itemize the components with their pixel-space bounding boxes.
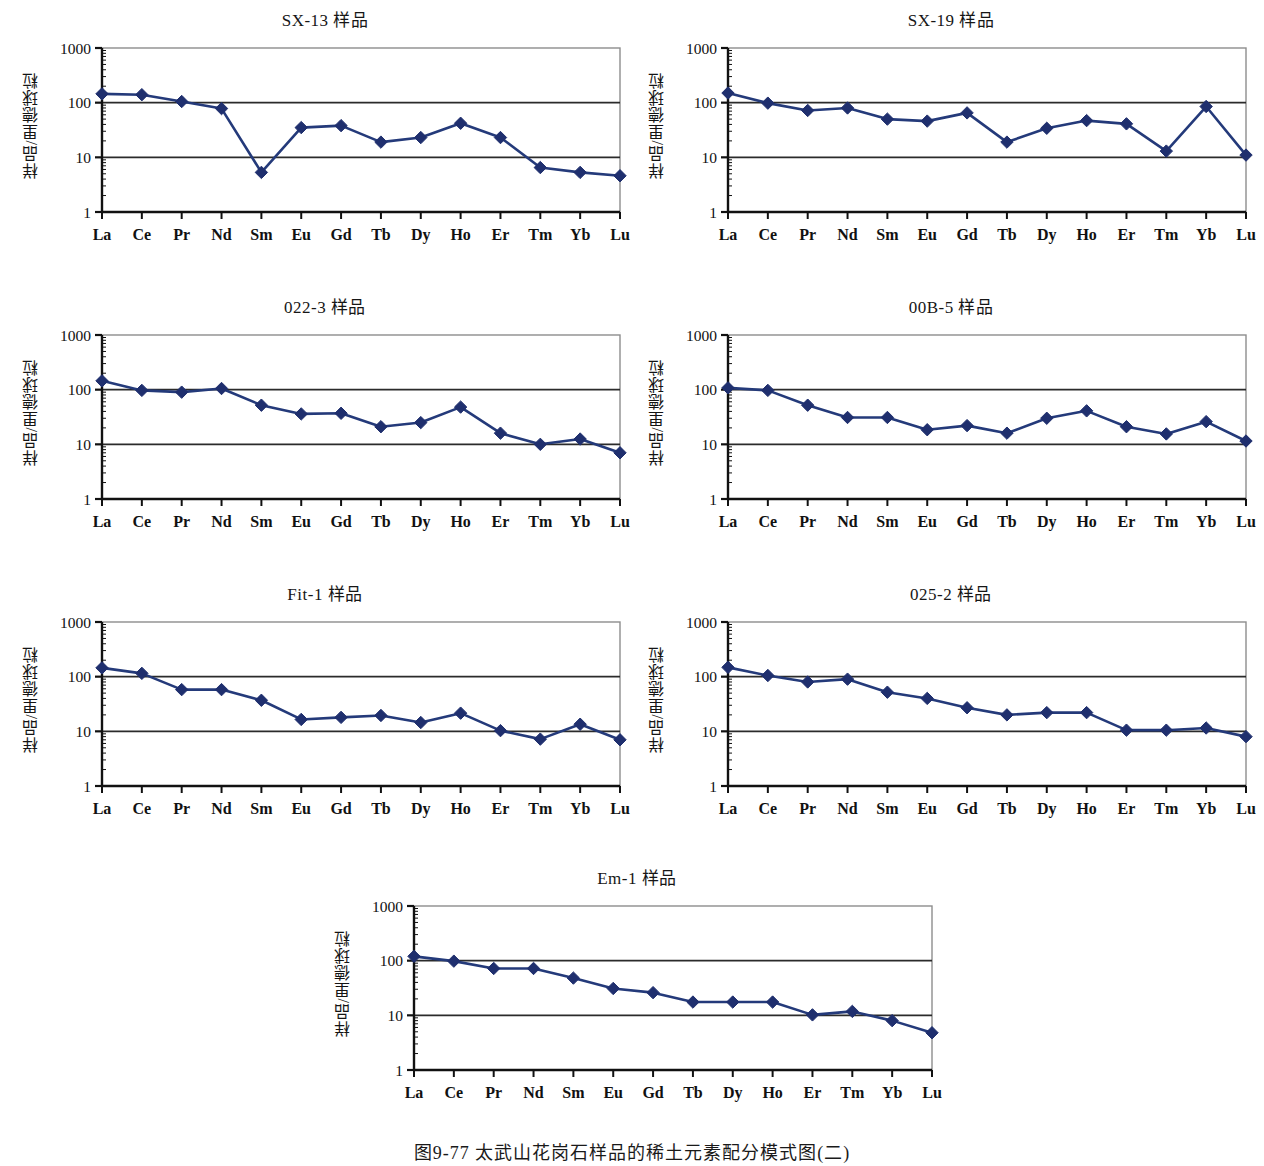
data-point-marker xyxy=(255,694,267,706)
y-tick-label: 100 xyxy=(68,381,92,398)
data-point-marker xyxy=(215,102,227,114)
panel-025-2: 025-2 样品样品/里德球粒1000100101LaCePrNdSmEuGdT… xyxy=(644,582,1258,860)
x-tick-label: Tm xyxy=(840,1084,865,1101)
x-tick-label: Gd xyxy=(956,226,977,243)
x-tick-label: Sm xyxy=(876,800,899,817)
data-point-marker xyxy=(801,676,813,688)
x-tick-label: La xyxy=(93,800,112,817)
x-tick-label: Yb xyxy=(1196,800,1217,817)
y-tick-label: 1 xyxy=(395,1062,403,1079)
y-axis-label: 样品/里德球粒 xyxy=(646,40,670,210)
data-point-marker xyxy=(607,982,619,994)
x-tick-label: Nd xyxy=(211,226,232,243)
plot-area-wrapper: 样品/里德球粒1000100101LaCePrNdSmEuGdTbDyHoErT… xyxy=(330,892,944,1142)
x-tick-label: Tm xyxy=(528,226,553,243)
data-point-marker xyxy=(926,1027,938,1039)
x-tick-label: Eu xyxy=(291,800,311,817)
figure-caption: 图9-77 太武山花岗石样品的稀土元素配分模式图(二) xyxy=(0,1138,1264,1164)
data-point-marker xyxy=(614,734,626,746)
data-point-marker xyxy=(215,683,227,695)
x-tick-label: Tb xyxy=(371,226,391,243)
chart-title: Em-1 样品 xyxy=(330,866,944,892)
panel-sx-13: SX-13 样品样品/里德球粒1000100101LaCePrNdSmEuGdT… xyxy=(18,8,632,286)
data-point-marker xyxy=(881,113,893,125)
panel-fit-1: Fit-1 样品样品/里德球粒1000100101LaCePrNdSmEuGdT… xyxy=(18,582,632,860)
x-tick-label: Sm xyxy=(250,226,273,243)
x-tick-label: Eu xyxy=(291,513,311,530)
plot-area-wrapper: 样品/里德球粒1000100101LaCePrNdSmEuGdTbDyHoErT… xyxy=(18,608,632,858)
chart-title: 025-2 样品 xyxy=(644,582,1258,608)
x-tick-label: Dy xyxy=(1037,513,1057,531)
data-point-marker xyxy=(921,115,933,127)
data-point-marker xyxy=(574,166,586,178)
data-point-marker xyxy=(1001,427,1013,439)
x-tick-label: Ce xyxy=(133,800,152,817)
x-tick-label: Nd xyxy=(211,513,232,530)
data-point-marker xyxy=(1001,709,1013,721)
x-tick-label: Yb xyxy=(882,1084,903,1101)
y-axis-label: 样品/里德球粒 xyxy=(646,327,670,497)
chart-title: Fit-1 样品 xyxy=(18,582,632,608)
data-point-marker xyxy=(1080,706,1092,718)
data-point-marker xyxy=(175,95,187,107)
x-tick-label: Sm xyxy=(876,226,899,243)
data-point-marker xyxy=(961,419,973,431)
y-tick-label: 100 xyxy=(68,668,92,685)
x-tick-label: Tb xyxy=(371,513,391,530)
x-tick-label: Ho xyxy=(762,1084,782,1101)
data-point-marker xyxy=(96,88,108,100)
data-point-marker xyxy=(494,724,506,736)
x-tick-label: Dy xyxy=(1037,226,1057,244)
data-point-marker xyxy=(96,662,108,674)
data-point-marker xyxy=(841,411,853,423)
y-tick-label: 10 xyxy=(702,723,718,740)
x-tick-label: La xyxy=(405,1084,424,1101)
chart-svg: 1000100101LaCePrNdSmEuGdTbDyHoErTmYbLu xyxy=(18,608,632,858)
x-tick-label: Pr xyxy=(799,226,816,243)
x-tick-label: Ho xyxy=(1076,513,1096,530)
x-tick-label: Ho xyxy=(1076,800,1096,817)
data-point-marker xyxy=(841,673,853,685)
data-point-marker xyxy=(295,713,307,725)
data-point-marker xyxy=(921,692,933,704)
x-tick-label: Ho xyxy=(1076,226,1096,243)
x-tick-label: Yb xyxy=(1196,226,1217,243)
y-axis-label: 样品/里德球粒 xyxy=(646,614,670,784)
chart-svg: 1000100101LaCePrNdSmEuGdTbDyHoErTmYbLu xyxy=(18,34,632,284)
data-point-marker xyxy=(1041,122,1053,134)
x-tick-label: Eu xyxy=(917,800,937,817)
y-tick-label: 1 xyxy=(709,778,717,795)
data-point-marker xyxy=(881,686,893,698)
data-point-marker xyxy=(1160,724,1172,736)
data-point-marker xyxy=(454,117,466,129)
y-tick-label: 1000 xyxy=(60,327,91,344)
x-tick-label: La xyxy=(93,513,112,530)
x-tick-label: Tm xyxy=(528,800,553,817)
x-tick-label: Yb xyxy=(570,800,591,817)
data-point-marker xyxy=(335,407,347,419)
x-tick-label: Dy xyxy=(723,1084,743,1102)
data-point-marker xyxy=(1160,428,1172,440)
data-point-marker xyxy=(534,733,546,745)
x-tick-label: Ce xyxy=(759,800,778,817)
x-tick-label: Sm xyxy=(876,513,899,530)
data-point-marker xyxy=(136,384,148,396)
x-tick-label: Eu xyxy=(917,226,937,243)
data-point-marker xyxy=(961,702,973,714)
x-tick-label: Dy xyxy=(411,800,431,818)
y-tick-label: 10 xyxy=(76,723,92,740)
data-point-marker xyxy=(534,438,546,450)
data-point-marker xyxy=(375,709,387,721)
chart-svg: 1000100101LaCePrNdSmEuGdTbDyHoErTmYbLu xyxy=(644,321,1258,571)
x-tick-label: La xyxy=(719,226,738,243)
chart-svg: 1000100101LaCePrNdSmEuGdTbDyHoErTmYbLu xyxy=(18,321,632,571)
x-tick-label: Pr xyxy=(799,513,816,530)
x-tick-label: Pr xyxy=(485,1084,502,1101)
x-tick-label: Tm xyxy=(528,513,553,530)
x-tick-label: Tb xyxy=(997,513,1017,530)
y-tick-label: 10 xyxy=(388,1007,404,1024)
y-axis-label: 样品/里德球粒 xyxy=(332,898,356,1068)
x-tick-label: Tb xyxy=(997,226,1017,243)
x-tick-label: Gd xyxy=(330,226,351,243)
data-point-marker xyxy=(762,97,774,109)
